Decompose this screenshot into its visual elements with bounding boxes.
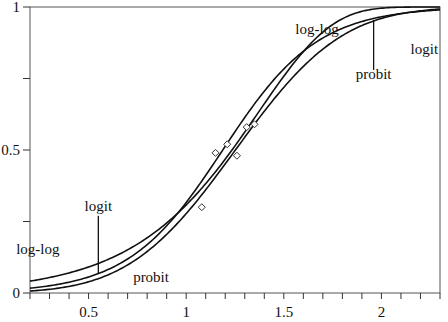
x-tick-label: 1.5 bbox=[274, 304, 293, 320]
data-point-diamond bbox=[212, 149, 219, 156]
curve-probit bbox=[30, 9, 440, 291]
curve-logit bbox=[30, 10, 440, 288]
y-tick-label: 0.5 bbox=[1, 142, 20, 158]
data-points bbox=[198, 121, 258, 211]
curve-label-probit: probit bbox=[133, 269, 170, 285]
y-tick-label: 0 bbox=[13, 285, 21, 301]
x-tick-label: 2 bbox=[378, 304, 386, 320]
curve-labels: log-logprobitlogitlogitlog-logprobit bbox=[16, 20, 439, 285]
data-point-diamond bbox=[233, 152, 240, 159]
curve-label-logit: logit bbox=[85, 198, 113, 214]
x-tick-label: 1 bbox=[182, 304, 190, 320]
y-tick-label: 1 bbox=[13, 0, 21, 15]
curve-label-probit: probit bbox=[356, 66, 393, 82]
link-function-chart: 0.511.5200.51 log-logprobitlogitlogitlog… bbox=[0, 0, 448, 322]
data-point-diamond bbox=[198, 204, 205, 211]
curve-label-logit: logit bbox=[411, 41, 439, 57]
curve-label-log-log: log-log bbox=[295, 21, 339, 37]
curves bbox=[30, 7, 440, 291]
curve-label-log-log: log-log bbox=[16, 241, 60, 257]
x-tick-label: 0.5 bbox=[79, 304, 98, 320]
curve-log-log bbox=[30, 7, 440, 281]
